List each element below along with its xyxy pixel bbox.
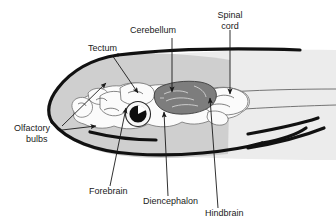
diagram-canvas: Tectum Cerebellum Spinal cord Olfactory …	[0, 0, 336, 223]
label-spinal-cord-line2: cord	[221, 21, 239, 31]
label-olfactory-bulbs-line1: Olfactory	[14, 123, 51, 133]
label-olfactory-bulbs-line2: bulbs	[26, 134, 48, 144]
label-forebrain: Forebrain	[89, 186, 128, 196]
label-diencephalon: Diencephalon	[143, 196, 198, 206]
label-cerebellum: Cerebellum	[130, 25, 176, 35]
fish-brain-diagram: Tectum Cerebellum Spinal cord Olfactory …	[0, 0, 336, 223]
label-hindbrain: Hindbrain	[205, 208, 244, 218]
label-tectum: Tectum	[88, 43, 117, 53]
olfactory-bulb-anterior	[72, 97, 93, 117]
eye-icon	[126, 102, 151, 127]
label-spinal-cord-line1: Spinal	[217, 10, 242, 20]
